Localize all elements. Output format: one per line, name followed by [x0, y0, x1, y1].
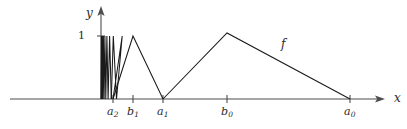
tick-label-b0-sub: 0	[228, 110, 233, 119]
tick-label-a1: a1	[157, 106, 168, 118]
tick-label-a2-sub: 2	[114, 110, 119, 119]
function-graph-figure: x y 1 f a2 b1 a1 b0 a0	[0, 0, 407, 129]
tick-label-b0-base: b	[221, 105, 228, 118]
y-axis-label: y	[86, 7, 93, 19]
function-name-label: f	[281, 38, 285, 50]
tick-label-b1-sub: 1	[134, 110, 139, 119]
tick-label-a0-base: a	[344, 105, 351, 118]
function-curve	[101, 33, 350, 99]
tick-label-a0-sub: 0	[351, 110, 356, 119]
tick-label-a1-sub: 1	[164, 110, 169, 119]
y-axis-unit-label: 1	[78, 30, 85, 41]
curve-accumulating-spikes	[101, 36, 111, 99]
tick-label-a0: a0	[344, 106, 355, 118]
tick-label-a2-base: a	[107, 105, 114, 118]
tick-label-a2: a2	[107, 106, 118, 118]
curve-main-sawtooth	[111, 36, 122, 99]
tick-label-b1-base: b	[127, 105, 134, 118]
x-axis-label: x	[394, 92, 401, 104]
curve-triangle-b0	[163, 33, 350, 99]
tick-label-b0: b0	[221, 106, 233, 118]
tick-label-a1-base: a	[157, 105, 164, 118]
x-axis	[10, 95, 385, 102]
tick-label-b1: b1	[127, 106, 139, 118]
